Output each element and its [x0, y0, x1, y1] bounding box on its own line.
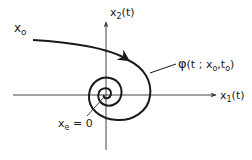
x2-axis-label: x2(t) [110, 6, 135, 21]
x1-axis-label: x1(t) [220, 89, 245, 104]
phi-leader-line [150, 64, 176, 73]
phase-portrait-diagram: x2(t) x1(t) xo φ(t ; xo,to) xe = 0 [0, 0, 252, 160]
equilibrium-label: xe = 0 [58, 117, 93, 132]
initial-state-label: xo [14, 21, 27, 37]
trajectory-curve [33, 40, 128, 60]
trajectory-label: φ(t ; xo,to) [178, 56, 234, 73]
trajectory-spiral [89, 60, 150, 120]
